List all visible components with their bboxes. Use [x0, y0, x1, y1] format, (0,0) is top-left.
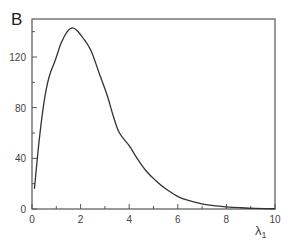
x-tick-label: 10 — [269, 214, 281, 225]
x-tick-label: 4 — [126, 214, 132, 225]
y-tick-label: 80 — [15, 103, 27, 114]
series-line — [34, 28, 275, 209]
y-tick-label: 0 — [20, 204, 26, 215]
x-tick-label: 8 — [224, 214, 230, 225]
y-tick-label: 40 — [15, 153, 27, 164]
x-tick-label: 6 — [175, 214, 181, 225]
plot-frame — [32, 19, 275, 209]
line-chart: 0246810 04080120 λ1 — [0, 0, 292, 248]
y-axis-ticks: 04080120 — [9, 32, 37, 215]
x-tick-label: 2 — [78, 214, 84, 225]
x-axis-label-subscript: 1 — [262, 230, 267, 240]
x-tick-label: 0 — [29, 214, 35, 225]
y-tick-label: 120 — [9, 52, 26, 63]
x-axis-label: λ1 — [255, 223, 267, 240]
x-axis-ticks: 0246810 — [29, 204, 281, 225]
